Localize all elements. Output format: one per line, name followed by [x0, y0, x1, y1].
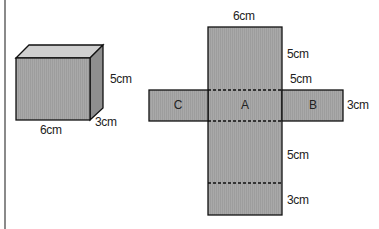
net-lower-height-label: 5cm [287, 148, 309, 162]
diagram-canvas [0, 0, 379, 229]
face-a-label: A [241, 98, 249, 112]
net-side-height-label: 3cm [347, 98, 369, 112]
face-c-label: C [174, 98, 183, 112]
cuboid-depth-label: 3cm [95, 115, 117, 129]
net-top-height-label: 5cm [287, 47, 309, 61]
net-bottom-height-label: 3cm [287, 193, 309, 207]
cuboid [16, 45, 103, 120]
face-b-label: B [309, 98, 317, 112]
cuboid-height-label: 5cm [110, 72, 132, 86]
net-side-width-label: 5cm [290, 72, 312, 86]
net [149, 27, 343, 215]
net-top-width-label: 6cm [233, 9, 255, 23]
cuboid-width-label: 6cm [40, 123, 62, 137]
